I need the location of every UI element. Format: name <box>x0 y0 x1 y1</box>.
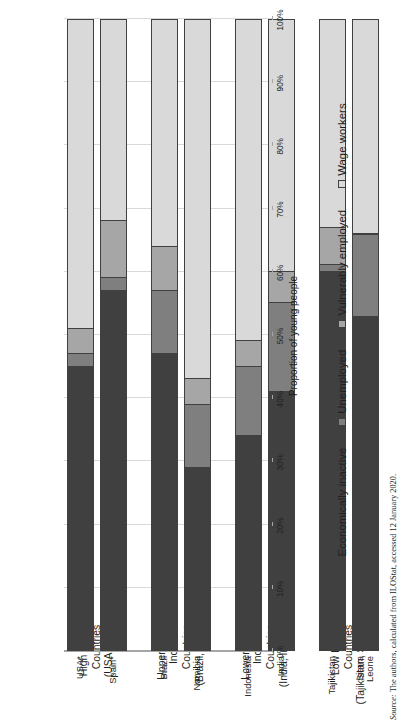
tick-mark-90 <box>272 79 273 83</box>
legend-label: Unemployed <box>336 350 348 414</box>
tick-label-80: 80% <box>276 129 285 163</box>
source-body: The authors, calculated from ILOStat, ac… <box>389 474 398 694</box>
segment-economically-inactive <box>67 19 94 329</box>
segment-wage-workers <box>100 291 127 651</box>
segment-vulnerably-employed <box>100 278 127 291</box>
tick-label-70: 70% <box>276 193 285 227</box>
legend-label: Economically inactive <box>336 448 348 557</box>
tick-mark-50 <box>272 332 273 336</box>
segment-wage-workers <box>184 468 211 651</box>
tick-label-20: 20% <box>276 509 285 543</box>
legend-item-wage-workers: Wage workers <box>336 103 348 187</box>
rotated-figure-wrapper: High IncomeCountries(USA, Spain)Upper mi… <box>0 0 409 726</box>
segment-economically-inactive <box>151 19 178 247</box>
legend-swatch-icon <box>338 418 346 426</box>
value-axis-title: Proportion of young people <box>288 20 299 652</box>
tick-label-50: 50% <box>276 319 285 353</box>
segment-economically-inactive <box>184 19 211 379</box>
bar-sierra-leone <box>352 19 379 651</box>
tick-mark-0 <box>272 648 273 652</box>
segment-vulnerably-employed <box>235 367 262 437</box>
segment-unemployed <box>100 221 127 278</box>
category-label-brazil: Brazil <box>159 656 169 724</box>
segment-unemployed <box>151 247 178 291</box>
tick-mark-10 <box>272 585 273 589</box>
source-note: Source: The authors, calculated from ILO… <box>389 380 398 720</box>
tick-mark-60 <box>272 269 273 273</box>
category-label-indonesia: Indonesia <box>243 656 253 724</box>
chart-legend: Economically inactiveUnemployedVulnerabl… <box>336 20 348 652</box>
category-label-sierra-leone: SierraLeone <box>355 656 376 724</box>
category-label-tajikistan: Tajikistan <box>327 656 337 724</box>
tick-label-30: 30% <box>276 445 285 479</box>
category-label-spain: Spain* <box>108 656 118 724</box>
bar-spain <box>100 19 127 651</box>
segment-unemployed <box>352 234 379 235</box>
tick-mark-30 <box>272 458 273 462</box>
tick-mark-70 <box>272 206 273 210</box>
segment-vulnerably-employed <box>151 291 178 354</box>
tick-mark-80 <box>272 142 273 146</box>
tick-label-10: 10% <box>276 572 285 606</box>
segment-wage-workers <box>67 367 94 651</box>
legend-item-economically-inactive: Economically inactive <box>336 448 348 569</box>
bar-indonesia <box>235 19 262 651</box>
chart-figure: High IncomeCountries(USA, Spain)Upper mi… <box>0 0 409 726</box>
segment-unemployed <box>67 329 94 354</box>
bar-namibia <box>184 19 211 651</box>
category-label-namibia: Namibia <box>192 656 202 724</box>
segment-economically-inactive <box>235 19 262 341</box>
tick-label-90: 90% <box>276 66 285 100</box>
segment-unemployed <box>235 341 262 366</box>
category-label-usa: USA* <box>75 656 85 724</box>
segment-vulnerably-employed <box>184 405 211 468</box>
segment-wage-workers <box>352 317 379 651</box>
source-label: Source: <box>389 694 398 720</box>
plot-area <box>64 20 272 652</box>
segment-vulnerably-employed <box>352 235 379 317</box>
tick-mark-40 <box>272 395 273 399</box>
segment-wage-workers <box>151 354 178 651</box>
tick-label-60: 60% <box>276 256 285 290</box>
tick-label-40: 40% <box>276 382 285 416</box>
legend-swatch-icon <box>338 561 346 569</box>
bar-brazil <box>151 19 178 651</box>
segment-unemployed <box>184 379 211 404</box>
legend-label: Vulnerably employed <box>336 210 348 316</box>
legend-item-vulnerably-employed: Vulnerably employed <box>336 210 348 328</box>
legend-label: Wage workers <box>336 103 348 175</box>
tick-mark-20 <box>272 522 273 526</box>
legend-swatch-icon <box>338 180 346 188</box>
segment-wage-workers <box>235 436 262 651</box>
segment-economically-inactive <box>352 19 379 234</box>
legend-swatch-icon <box>338 320 346 328</box>
segment-vulnerably-employed <box>67 354 94 367</box>
segment-economically-inactive <box>100 19 127 221</box>
tick-label-100: 100% <box>276 3 285 37</box>
legend-item-unemployed: Unemployed <box>336 350 348 426</box>
category-label-india: India <box>276 656 286 724</box>
tick-mark-100 <box>272 16 273 20</box>
bar-usa <box>67 19 94 651</box>
